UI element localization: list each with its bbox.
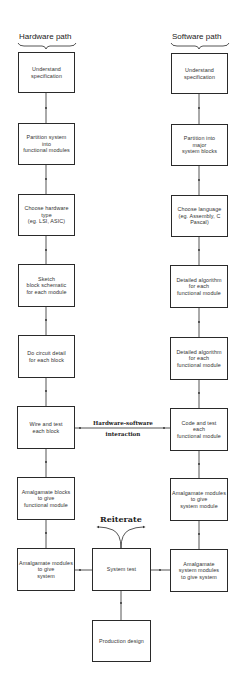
hw-step-understand-spec: Understand specification <box>18 52 75 93</box>
hw-step-sketch-schematic: Sketch block schematic for each module <box>18 264 75 307</box>
reiterate-label: Reiterate <box>100 514 142 524</box>
hw-step-circuit-detail: Do circuit detail for each block <box>18 335 75 378</box>
sw-step-choose-language: Choose language (eg. Assembly, C Pascal) <box>171 195 228 237</box>
sw-step-partition: Partition into major system blocks <box>171 124 228 166</box>
sw-step-detailed-algorithm-1: Detailed algorithm for each functional m… <box>170 265 228 308</box>
hw-step-wire-and-test: Wire and test each block <box>17 406 75 449</box>
production-design-box: Production design <box>92 620 151 662</box>
hw-step-choose-hardware: Choose hardware type (eg. LSI, ASIC) <box>18 194 75 236</box>
system-test-box: System test <box>92 548 151 591</box>
software-path-header: Software path <box>172 32 221 41</box>
hw-step-partition: Partition system into functional modules <box>18 123 75 165</box>
hardware-path-header: Hardware path <box>19 32 71 41</box>
sw-step-detailed-algorithm-2: Detailed algorithm for each functional m… <box>170 337 228 380</box>
sw-step-amalgamate-modules: Amalgamate modules to give system module <box>170 478 228 521</box>
sw-step-amalgamate-system-modules: Amalgamate system modules to give system <box>170 549 228 592</box>
interaction-label-line1: Hardware-software <box>88 420 158 426</box>
sw-step-understand-spec: Understand specification <box>171 53 228 94</box>
hw-step-amalgamate-modules: Amalgamate modules to give system <box>17 548 75 591</box>
interaction-label-line2: interaction <box>88 431 158 437</box>
sw-step-code-and-test: Code and test each functional module <box>170 408 228 451</box>
hw-step-amalgamate-blocks: Amalgamate blocks to give functional mod… <box>17 477 75 520</box>
